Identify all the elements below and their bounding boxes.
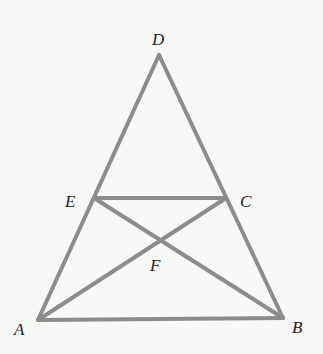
label-a: A xyxy=(13,320,25,339)
label-c: C xyxy=(240,192,252,211)
label-f: F xyxy=(149,256,161,275)
label-d: D xyxy=(151,30,165,49)
label-e: E xyxy=(64,192,76,211)
segments xyxy=(38,55,283,320)
label-b: B xyxy=(292,318,303,337)
vertex-labels: D E C F A B xyxy=(13,30,303,339)
triangle-figure: D E C F A B xyxy=(0,0,323,354)
geometry-diagram: D E C F A B xyxy=(0,0,323,354)
segment-ab xyxy=(38,318,283,320)
